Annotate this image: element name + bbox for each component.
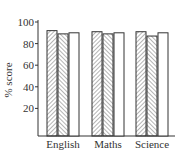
bars: [47, 31, 168, 136]
bar: [158, 33, 168, 136]
x-axis-labels: EnglishMathsScience: [46, 138, 169, 150]
y-tick-label: 100: [18, 16, 35, 28]
bar: [47, 31, 57, 136]
x-tick-label: Maths: [94, 138, 122, 150]
x-tick-label: Science: [135, 138, 169, 150]
y-tick-label: 20: [23, 102, 35, 114]
bar: [136, 32, 146, 136]
bar: [114, 33, 124, 136]
y-tick-label: 60: [23, 59, 35, 71]
bar: [147, 36, 157, 136]
bar: [92, 32, 102, 136]
bar-chart: 20406080100 EnglishMathsScience % score: [0, 0, 180, 150]
y-tick-label: 40: [23, 81, 35, 93]
bar: [103, 34, 113, 136]
bar: [69, 33, 79, 136]
y-tick-label: 80: [23, 38, 35, 50]
bar: [58, 34, 68, 136]
y-axis-label: % score: [2, 62, 14, 97]
x-tick-label: English: [46, 138, 80, 150]
